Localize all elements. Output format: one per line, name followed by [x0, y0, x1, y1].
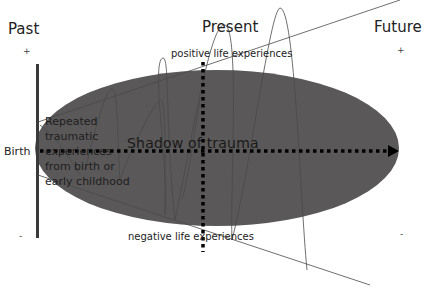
- past-label: Past: [8, 20, 39, 38]
- past-plus-sign: +: [23, 46, 31, 56]
- future-plus-sign: +: [397, 45, 405, 55]
- future-label: Future: [374, 18, 422, 36]
- repeated-trauma-label: Repeated traumatic experiences from birt…: [45, 114, 135, 189]
- negative-experiences-label: negative life experiences: [128, 231, 254, 242]
- past-minus-sign: -: [19, 231, 22, 241]
- shadow-of-trauma-label: Shadow of trauma: [127, 135, 259, 151]
- birth-axis-bar: [36, 64, 39, 238]
- present-label: Present: [202, 18, 258, 36]
- future-minus-sign: -: [400, 229, 403, 239]
- positive-experiences-label: positive life experiences: [171, 48, 292, 59]
- birth-label: Birth: [4, 145, 30, 158]
